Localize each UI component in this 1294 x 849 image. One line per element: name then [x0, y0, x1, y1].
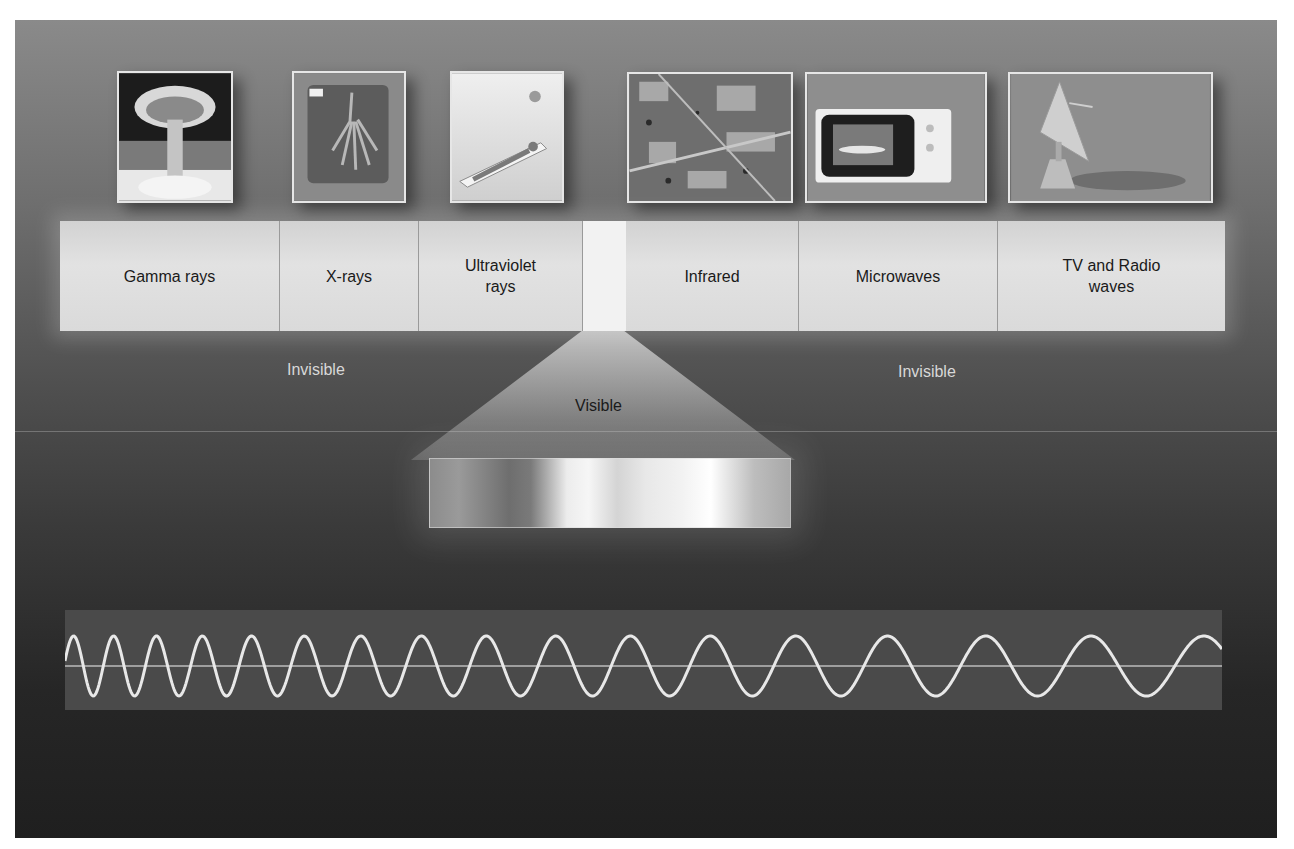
spectrum-band: Gamma rays X-rays Ultraviolet rays Infra… — [60, 221, 1225, 331]
band-label-infrared: Infrared — [684, 266, 739, 287]
band-label-tv-radio-line1: TV and Radio — [1063, 255, 1161, 276]
invisible-label-right: Invisible — [898, 363, 956, 381]
band-tv-radio: TV and Radio waves — [998, 221, 1225, 331]
band-visible-slot — [583, 221, 626, 331]
band-infrared: Infrared — [626, 221, 799, 331]
band-x-rays: X-rays — [280, 221, 419, 331]
visible-spectrum-bar — [429, 458, 791, 528]
visible-label: Visible — [575, 397, 622, 415]
band-label-tv-radio-line2: waves — [1089, 276, 1134, 297]
horizon-line — [15, 431, 1277, 432]
band-label-ultraviolet-line1: Ultraviolet — [465, 255, 536, 276]
band-label-gamma-rays: Gamma rays — [124, 266, 216, 287]
band-gamma-rays: Gamma rays — [60, 221, 280, 331]
spectrum-diagram: Gamma rays X-rays Ultraviolet rays Infra… — [15, 20, 1277, 838]
invisible-label-left: Invisible — [287, 361, 345, 379]
band-label-x-rays: X-rays — [326, 266, 372, 287]
band-label-ultraviolet-line2: rays — [485, 276, 515, 297]
band-ultraviolet: Ultraviolet rays — [419, 221, 583, 331]
band-label-microwaves: Microwaves — [856, 266, 940, 287]
wavelength-wave-panel — [65, 610, 1222, 710]
band-microwaves: Microwaves — [799, 221, 998, 331]
decreasing-frequency-wave-icon — [65, 610, 1222, 710]
